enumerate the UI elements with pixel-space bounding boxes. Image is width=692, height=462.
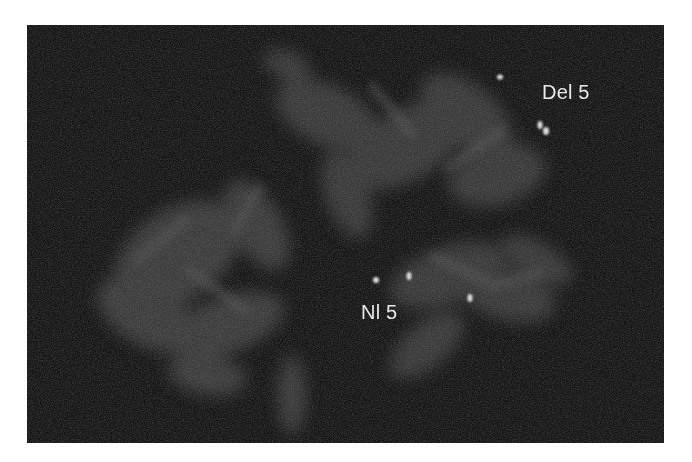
deleted-chromosome-5-label: Del 5 [542, 82, 590, 102]
micrograph-panel: Del 5 Nl 5 [27, 25, 664, 443]
signal-nl5-a [373, 277, 379, 283]
signal-nl5-b [407, 272, 412, 280]
normal-chromosome-5-label: Nl 5 [361, 302, 397, 322]
signal-del5-b [538, 121, 543, 129]
signal-del5-a [497, 75, 503, 80]
signal-del5-c [543, 127, 549, 135]
signal-extra [468, 294, 473, 302]
